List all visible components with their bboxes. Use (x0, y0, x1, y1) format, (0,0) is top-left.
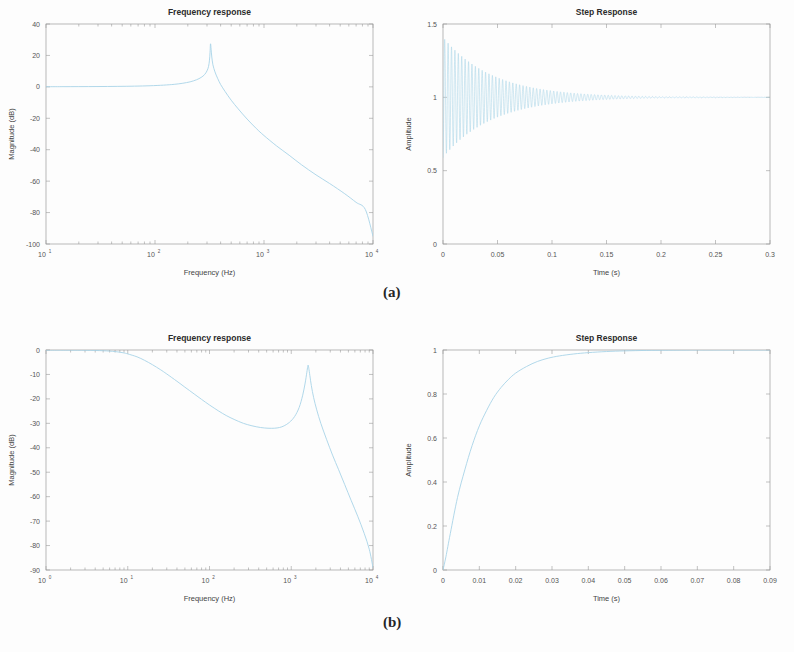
y-tick-label: 0.5 (427, 167, 437, 174)
y-tick-label: 0.6 (427, 435, 437, 442)
data-series (443, 350, 770, 570)
svg-text:0.25: 0.25 (709, 251, 723, 258)
svg-text:4: 4 (376, 249, 379, 254)
y-tick-label: -70 (30, 518, 40, 525)
y-tick-label: 0 (36, 347, 40, 354)
subfigure-label-b: (b) (383, 614, 401, 631)
svg-text:2: 2 (212, 575, 215, 580)
subfigure-label-a: (a) (383, 284, 401, 301)
y-axis-label: Amplitude (404, 117, 413, 150)
svg-text:0.03: 0.03 (545, 577, 559, 584)
panel-frequency-response-a: Frequency response-100-80-60-40-20020401… (0, 0, 397, 300)
y-tick-label: -80 (30, 542, 40, 549)
svg-text:10: 10 (365, 577, 373, 584)
plot-frame (443, 24, 770, 244)
step-response-curve (443, 39, 770, 157)
y-tick-label: 0.8 (427, 391, 437, 398)
chart-title: Frequency response (168, 7, 251, 17)
y-tick-label: -80 (30, 209, 40, 216)
svg-text:10: 10 (120, 577, 128, 584)
svg-text:2: 2 (158, 249, 161, 254)
svg-text:0.01: 0.01 (473, 577, 487, 584)
svg-text:10: 10 (38, 251, 46, 258)
svg-text:1: 1 (49, 249, 52, 254)
panel-step-response-b: Step Response00.20.40.60.8100.010.020.03… (397, 326, 794, 626)
y-tick-label: -50 (30, 469, 40, 476)
y-axis-label: Magnitude (dB) (7, 108, 16, 160)
chart-freq-response-a: Frequency response-100-80-60-40-20020401… (0, 0, 397, 300)
svg-text:0.1: 0.1 (547, 251, 557, 258)
svg-text:0.02: 0.02 (509, 577, 523, 584)
y-tick-label: -60 (30, 493, 40, 500)
svg-text:0: 0 (49, 575, 52, 580)
chart-step-response-b: Step Response00.20.40.60.8100.010.020.03… (397, 326, 794, 626)
svg-text:3: 3 (294, 575, 297, 580)
panel-step-response-a: Step Response00.511.500.050.10.150.20.25… (397, 0, 794, 300)
svg-text:0.09: 0.09 (763, 577, 777, 584)
svg-text:10: 10 (147, 251, 155, 258)
data-series (46, 350, 373, 567)
y-tick-label: -20 (30, 395, 40, 402)
svg-text:10: 10 (283, 577, 291, 584)
data-series (443, 39, 770, 157)
magnitude-curve (46, 44, 373, 236)
y-tick-label: -60 (30, 178, 40, 185)
y-tick-label: 0.4 (427, 479, 437, 486)
svg-text:0.06: 0.06 (654, 577, 668, 584)
svg-text:4: 4 (376, 575, 379, 580)
svg-text:1: 1 (130, 575, 133, 580)
y-tick-label: -30 (30, 420, 40, 427)
x-axis-label: Frequency (Hz) (184, 268, 236, 277)
figure-container: Frequency response-100-80-60-40-20020401… (0, 0, 794, 652)
svg-text:0.3: 0.3 (765, 251, 775, 258)
svg-text:0.07: 0.07 (691, 577, 705, 584)
y-axis-label: Amplitude (404, 443, 413, 476)
svg-text:0.2: 0.2 (656, 251, 666, 258)
svg-text:0.15: 0.15 (600, 251, 614, 258)
y-tick-label: 0 (433, 241, 437, 248)
svg-text:10: 10 (202, 577, 210, 584)
y-tick-label: -90 (30, 567, 40, 574)
svg-text:10: 10 (256, 251, 264, 258)
y-tick-label: 40 (32, 21, 40, 28)
y-tick-label: -40 (30, 146, 40, 153)
svg-text:0.05: 0.05 (491, 251, 505, 258)
magnitude-curve (443, 350, 770, 570)
svg-text:0: 0 (441, 577, 445, 584)
y-tick-label: 0 (433, 567, 437, 574)
x-axis-label: Time (s) (593, 268, 621, 277)
svg-text:0: 0 (441, 251, 445, 258)
svg-text:3: 3 (267, 249, 270, 254)
x-axis-label: Frequency (Hz) (184, 594, 236, 603)
magnitude-curve (46, 350, 373, 567)
svg-text:0.04: 0.04 (582, 577, 596, 584)
chart-step-response-a: Step Response00.511.500.050.10.150.20.25… (397, 0, 794, 300)
y-tick-label: 0.2 (427, 523, 437, 530)
chart-title: Step Response (576, 7, 638, 17)
y-tick-label: 0 (36, 83, 40, 90)
y-tick-label: -40 (30, 444, 40, 451)
data-series (46, 44, 373, 236)
svg-text:0.08: 0.08 (727, 577, 741, 584)
plot-frame (443, 350, 770, 570)
y-tick-label: 1 (433, 94, 437, 101)
chart-title: Frequency response (168, 333, 251, 343)
y-tick-label: 1 (433, 347, 437, 354)
y-tick-label: -10 (30, 371, 40, 378)
plot-frame (46, 350, 373, 570)
chart-title: Step Response (576, 333, 638, 343)
y-tick-label: -100 (26, 241, 40, 248)
y-tick-label: -20 (30, 115, 40, 122)
y-tick-label: 1.5 (427, 21, 437, 28)
panel-frequency-response-b: Frequency response-90-80-70-60-50-40-30-… (0, 326, 397, 626)
svg-text:10: 10 (38, 577, 46, 584)
x-axis-label: Time (s) (593, 594, 621, 603)
svg-text:10: 10 (365, 251, 373, 258)
svg-text:0.05: 0.05 (618, 577, 632, 584)
chart-freq-response-b: Frequency response-90-80-70-60-50-40-30-… (0, 326, 397, 626)
y-tick-label: 20 (32, 52, 40, 59)
y-axis-label: Magnitude (dB) (7, 434, 16, 486)
